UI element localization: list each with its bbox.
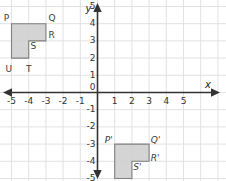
x-tick-label-2: 2 [126, 97, 138, 106]
y-tick-label-2: 2 [82, 54, 96, 63]
vertex-label-T: T [26, 65, 32, 74]
y-axis-label: y [86, 4, 92, 14]
x-tick-label-1: 1 [109, 97, 121, 106]
x-axis-arrow-right [211, 88, 220, 96]
x-tick-label-4: 4 [160, 97, 172, 106]
x-tick-label--2: -2 [57, 97, 69, 106]
x-tick-label--3: -3 [40, 97, 52, 106]
x-tick-label--5: -5 [6, 97, 18, 106]
x-tick-label-5: 5 [178, 97, 190, 106]
origin-label: 0 [85, 83, 96, 92]
y-tick-label-neg4: -4 [82, 157, 96, 166]
y-tick-label-1: 1 [82, 71, 96, 80]
x-axis-label: x [205, 80, 211, 90]
x-tick-label-3: 3 [143, 97, 155, 106]
vertex-label-S: S [30, 42, 36, 51]
vertex-label-P-prime: P' [105, 136, 113, 145]
y-tick-label-neg2: -2 [82, 122, 96, 131]
vertex-label-R: R [48, 31, 54, 40]
vertex-label-Q: Q [48, 14, 55, 23]
axes [0, 0, 226, 181]
vertex-label-Q-prime: Q' [151, 136, 161, 145]
y-tick-label-neg5: -5 [82, 174, 96, 181]
vertex-label-S-prime: S' [133, 163, 141, 172]
y-tick-label-4: 4 [82, 19, 96, 28]
y-tick-label-neg3: -3 [82, 140, 96, 149]
x-tick-label--1: -1 [74, 97, 86, 106]
vertex-label-R-prime: R' [151, 154, 160, 163]
x-tick-label--4: -4 [23, 97, 35, 106]
y-tick-label-3: 3 [82, 36, 96, 45]
y-tick-label-neg1: -1 [82, 105, 96, 114]
vertex-label-U: U [5, 65, 12, 74]
coordinate-plane-figure: -5-4-3-2-11234554321-1-2-3-4-50xyPQRSTUP… [0, 0, 226, 181]
vertex-label-P: P [4, 14, 9, 23]
